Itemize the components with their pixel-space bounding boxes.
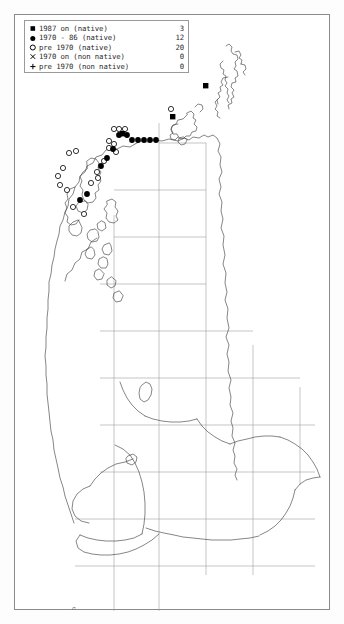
screenshot-root: 1987 on (native) 3 1970 - 86 (native) 12… <box>0 0 344 624</box>
legend-row: 1987 on (native) 3 <box>29 24 184 33</box>
markers-1987-on-native <box>120 83 208 136</box>
coastline-isle-of-man <box>139 382 152 402</box>
grid-lines <box>75 123 315 611</box>
coastline-mainland-britain <box>45 135 320 555</box>
legend-count: 0 <box>164 52 184 61</box>
legend-count: 3 <box>164 24 184 33</box>
legend-row: 1970 on (non native) 0 <box>29 52 184 61</box>
cross-x-icon <box>29 52 38 61</box>
legend-label: 1987 on (native) <box>39 24 164 33</box>
legend-count: 0 <box>164 62 184 71</box>
coastline-skye-inner-isles <box>94 199 123 302</box>
legend-count: 20 <box>164 43 184 52</box>
legend-label: 1970 - 86 (native) <box>39 33 164 42</box>
filled-circle-icon <box>29 34 38 43</box>
legend-label: 1970 on (non native) <box>39 52 164 61</box>
markers-pre-1970-native <box>55 106 173 216</box>
map-legend: 1987 on (native) 3 1970 - 86 (native) 12… <box>24 20 189 73</box>
legend-row: 1970 - 86 (native) 12 <box>29 33 184 42</box>
legend-count: 12 <box>164 33 184 42</box>
plus-icon <box>29 62 38 71</box>
coastline-wales <box>72 459 133 523</box>
markers-1970-86-native <box>77 132 159 203</box>
distribution-map-canvas <box>15 15 331 611</box>
open-circle-icon <box>29 43 38 52</box>
map-frame: 1987 on (native) 3 1970 - 86 (native) 12… <box>14 14 330 610</box>
channel-islands-glyph: ▱ <box>72 604 76 611</box>
filled-square-icon <box>29 24 38 33</box>
legend-row: pre 1970 (non native) 0 <box>29 62 184 71</box>
legend-label: pre 1970 (native) <box>39 43 164 52</box>
coastline-shetland <box>215 44 246 118</box>
legend-row: pre 1970 (native) 20 <box>29 43 184 52</box>
legend-label: pre 1970 (non native) <box>39 62 164 71</box>
